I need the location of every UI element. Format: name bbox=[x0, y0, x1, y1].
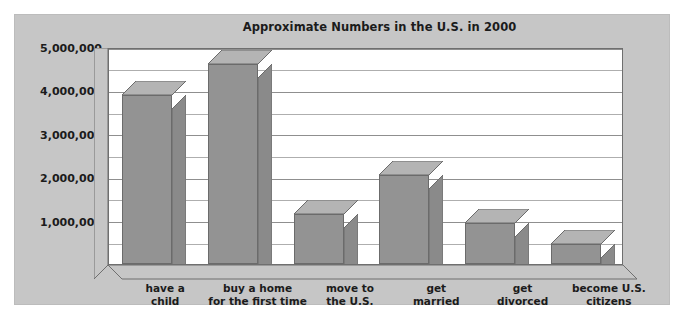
bar-top-face bbox=[294, 200, 344, 214]
bar-side-face bbox=[429, 175, 443, 264]
gridline-minor bbox=[109, 114, 622, 115]
bar-side-face bbox=[258, 64, 272, 264]
bar-top-face bbox=[208, 50, 258, 64]
x-axis-category-label: move tothe U.S. bbox=[307, 281, 393, 317]
bar bbox=[379, 175, 429, 264]
chart-figure: Approximate Numbers in the U.S. in 2000 … bbox=[0, 0, 683, 320]
chart-title: Approximate Numbers in the U.S. in 2000 bbox=[122, 20, 637, 34]
plot-region bbox=[108, 48, 623, 265]
bar-front-face bbox=[122, 95, 172, 264]
y-axis-tick-label: 1,000,000 bbox=[18, 215, 102, 228]
gridline-major bbox=[109, 179, 622, 180]
gridline-minor bbox=[109, 244, 622, 245]
gridline-major bbox=[109, 222, 622, 223]
axis-floor-3d bbox=[108, 265, 637, 280]
y-axis-tick-label: 0 bbox=[18, 259, 102, 272]
x-axis-category-label: getmarried bbox=[393, 281, 479, 317]
bar-front-face bbox=[294, 214, 344, 264]
gridline-minor bbox=[109, 70, 622, 71]
y-axis-tick-label: 5,000,000 bbox=[18, 42, 102, 55]
y-axis-tick-label: 4,000,000 bbox=[18, 85, 102, 98]
axis-left-wall-3d bbox=[94, 48, 109, 280]
bar-side-face bbox=[344, 214, 358, 264]
bar-top-face bbox=[551, 230, 601, 244]
bar bbox=[294, 214, 344, 264]
y-axis-tick-label: 3,000,000 bbox=[18, 128, 102, 141]
gridline-major bbox=[109, 92, 622, 93]
gridline-major bbox=[109, 49, 622, 50]
x-axis: have achildbuy a homefor the first timem… bbox=[122, 281, 652, 317]
x-axis-category-label: have achild bbox=[122, 281, 208, 317]
gridline-major bbox=[109, 135, 622, 136]
bar-side-face bbox=[601, 244, 615, 264]
bar-top-face bbox=[465, 209, 515, 223]
bar-side-face bbox=[515, 223, 529, 264]
y-axis: 01,000,0002,000,0003,000,0004,000,0005,0… bbox=[14, 48, 102, 265]
y-axis-tick-label: 2,000,000 bbox=[18, 172, 102, 185]
x-axis-category-label: become U.S.citizens bbox=[566, 281, 652, 317]
bar bbox=[465, 223, 515, 264]
gridline-minor bbox=[109, 200, 622, 201]
x-axis-category-label: getdivorced bbox=[479, 281, 565, 317]
bar-top-face bbox=[122, 81, 172, 95]
bar-top-face bbox=[379, 161, 429, 175]
plot-area bbox=[108, 48, 623, 265]
bar-side-face bbox=[172, 95, 186, 264]
x-axis-category-label: buy a homefor the first time bbox=[208, 281, 306, 317]
bar bbox=[122, 95, 172, 264]
chart-panel: Approximate Numbers in the U.S. in 2000 … bbox=[14, 14, 670, 305]
bar-front-face bbox=[465, 223, 515, 264]
bar-front-face bbox=[551, 244, 601, 264]
bar-front-face bbox=[379, 175, 429, 264]
bar bbox=[208, 64, 258, 264]
bar-front-face bbox=[208, 64, 258, 264]
bar bbox=[551, 244, 601, 264]
gridline-minor bbox=[109, 157, 622, 158]
